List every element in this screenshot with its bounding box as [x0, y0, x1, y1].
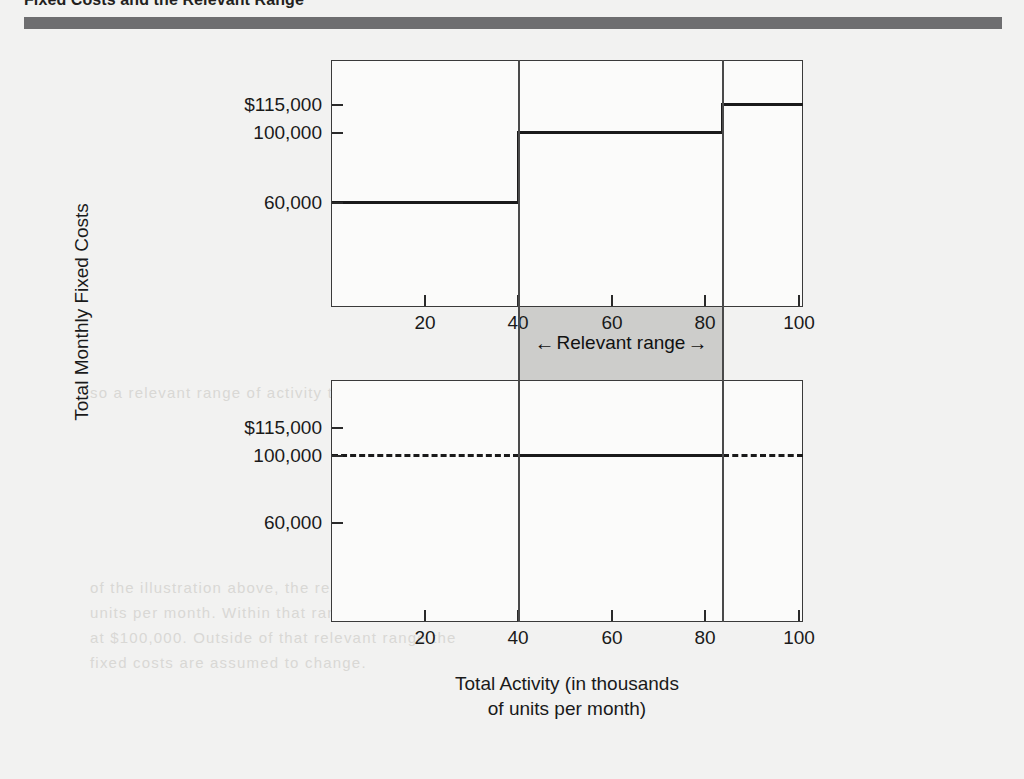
cost-step-segment-115000 — [722, 103, 803, 106]
arrow-right-icon: → — [687, 333, 707, 353]
upper-ylabel-100000: 100,000 — [170, 122, 322, 144]
lower-xtick-20 — [424, 610, 426, 621]
cost-step-segment-60000 — [332, 201, 519, 204]
lower-plot-frame — [331, 380, 803, 622]
cost-constant-solid-inside — [518, 454, 724, 457]
lower-ylabel-60000: 60,000 — [170, 512, 322, 534]
relevant-range-right-edge — [722, 60, 724, 622]
upper-xlabel-100: 100 — [759, 312, 839, 334]
upper-xtick-60 — [611, 295, 613, 306]
lower-xlabel-40: 40 — [478, 627, 558, 649]
upper-xlabel-20: 20 — [385, 312, 465, 334]
figure-page: so a relevant range of activity that the… — [0, 0, 1024, 779]
y-axis-title: Total Monthly Fixed Costs — [71, 172, 93, 452]
cost-constant-dashed-left — [332, 454, 519, 457]
relevant-range-annotation: ← Relevant range → — [518, 328, 724, 358]
upper-plot-frame — [331, 60, 803, 307]
relevant-range-left-edge — [518, 60, 520, 622]
exhibit-title: Fixed Costs and the Relevant Range — [24, 0, 304, 9]
lower-ytick-115000 — [332, 427, 343, 429]
upper-xtick-80 — [704, 295, 706, 306]
lower-xtick-80 — [704, 610, 706, 621]
x-axis-title-line-1: Total Activity (in thousands — [455, 673, 679, 694]
lower-xlabel-20: 20 — [385, 627, 465, 649]
lower-ylabel-115000: $115,000 — [170, 417, 322, 439]
lower-ytick-60000 — [332, 522, 343, 524]
lower-xtick-100 — [798, 610, 800, 621]
figure-canvas: $115,000 100,000 60,000 20 40 60 80 100 … — [0, 29, 1024, 779]
upper-ylabel-60000: 60,000 — [170, 192, 322, 214]
x-axis-title-line-2: of units per month) — [331, 696, 803, 721]
lower-ylabel-100000: 100,000 — [170, 445, 322, 467]
arrow-left-icon: ← — [535, 333, 555, 353]
title-rule — [24, 17, 1002, 29]
upper-ytick-100000 — [332, 132, 343, 134]
y-axis-title-text: Total Monthly Fixed Costs — [71, 203, 92, 421]
upper-ytick-115000 — [332, 104, 343, 106]
upper-ytick-60000 — [332, 202, 343, 204]
lower-xlabel-80: 80 — [665, 627, 745, 649]
lower-xlabel-100: 100 — [759, 627, 839, 649]
upper-xtick-100 — [798, 295, 800, 306]
lower-xlabel-60: 60 — [572, 627, 652, 649]
upper-ylabel-115000: $115,000 — [170, 94, 322, 116]
cost-step-segment-100000 — [518, 131, 724, 134]
lower-ytick-100000 — [332, 455, 343, 457]
x-axis-title: Total Activity (in thousands of units pe… — [331, 671, 803, 721]
upper-xtick-20 — [424, 295, 426, 306]
lower-xtick-60 — [611, 610, 613, 621]
cost-constant-dashed-right — [723, 454, 803, 457]
relevant-range-label: Relevant range — [555, 332, 688, 354]
